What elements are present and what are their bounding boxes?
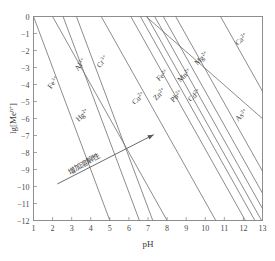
y-tick-label: −11 [17, 200, 29, 209]
x-tick-label: 6 [127, 224, 131, 233]
y-tick-label: −1 [21, 30, 30, 39]
series-line-zn2+ [131, 17, 246, 221]
series-line-ca2+ [221, 17, 275, 221]
series-label-text: Mg2+ [192, 49, 210, 67]
series-label-hg2+: Hg2+ [73, 106, 90, 123]
x-tick-label: 4 [89, 224, 93, 233]
x-tick-label: 12 [239, 224, 247, 233]
y-tick-label: −4 [21, 81, 30, 90]
series-labels: Fe3+Al3+Cr3+Hg2+Cu2+Zn2+Fe2+Pb2+Mn2+Cd2+… [45, 31, 249, 124]
y-tick-label: −3 [21, 64, 30, 73]
x-tick-label: 11 [220, 224, 228, 233]
series-label-text: Ca2+ [233, 31, 250, 48]
series-label-mg2+: Mg2+ [192, 49, 210, 67]
y-tick-label: −10 [17, 183, 30, 192]
y-tick-label: −12 [17, 217, 30, 226]
series-line-pb2+ [147, 17, 261, 221]
y-tick-label: 0 [26, 13, 30, 22]
series-label-text: As3+ [233, 107, 250, 124]
chart-canvas: 增加溶解性 Fe3+Al3+Cr3+Hg2+Cu2+Zn2+Fe2+Pb2+Mn… [0, 0, 275, 261]
y-tick-label: −2 [21, 47, 30, 56]
series-label-text: Hg2+ [73, 106, 90, 123]
series-line-hg2+ [53, 17, 168, 221]
solubility-trend-annotation-label: 增加溶解性 [66, 150, 102, 177]
solubility-chart-figure: 增加溶解性 Fe3+Al3+Cr3+Hg2+Cu2+Zn2+Fe2+Pb2+Mn… [0, 0, 275, 261]
series-label-as3+: As3+ [233, 107, 250, 124]
x-tick-label: 7 [146, 224, 150, 233]
x-tick-label: 5 [108, 224, 112, 233]
series-label-text: Fe2+ [154, 67, 170, 83]
x-tick-label: 1 [32, 224, 36, 233]
series-label-text: Cr3+ [94, 53, 110, 69]
y-tick-label: −9 [21, 166, 30, 175]
y-axis-title-tail: ] [8, 103, 18, 106]
series-line-cu2+ [101, 17, 216, 221]
solubility-trend-annotation-arrow-shaft [57, 135, 153, 184]
solubility-trend-annotation-arrow-head [147, 135, 153, 140]
x-axis-title: pH [143, 239, 155, 249]
series-label-mn2+: Mn2+ [175, 66, 193, 84]
y-axis-title-base: lg[Me [8, 112, 18, 134]
x-tick-label: 3 [70, 224, 74, 233]
series-label-zn2+: Zn2+ [151, 86, 168, 103]
series-line-cd2+ [163, 17, 275, 221]
series-label-ca2+: Ca2+ [233, 31, 250, 48]
series-line-mg2+ [176, 17, 275, 221]
series-label-cr3+: Cr3+ [94, 53, 110, 69]
y-tick-label: −7 [21, 132, 30, 141]
x-tick-label: 2 [51, 224, 55, 233]
series-label-text: Zn2+ [151, 86, 168, 103]
x-tick-label: 8 [165, 224, 169, 233]
series-line-mn2+ [155, 17, 270, 221]
series-label-al3+: Al3+ [72, 56, 88, 72]
y-axis-title-text: lg[Men+] [8, 103, 18, 134]
series-line-cr3+ [76, 17, 152, 221]
axis-tick-labels: 123456789101112130−1−2−3−4−5−6−7−8−9−10−… [17, 13, 267, 233]
x-tick-label: 9 [184, 224, 188, 233]
x-tick-label: 13 [259, 224, 267, 233]
x-tick-label: 10 [201, 224, 209, 233]
annotation-layer: 增加溶解性 [57, 135, 153, 184]
y-axis-title: lg[Men+] [8, 103, 18, 134]
y-tick-label: −6 [21, 115, 30, 124]
series-line-fe3+ [34, 17, 110, 221]
series-label-fe2+: Fe2+ [154, 67, 170, 83]
y-tick-label: −5 [21, 98, 30, 107]
series-label-text: Mn2+ [175, 66, 193, 84]
y-tick-label: −8 [21, 149, 30, 158]
series-label-text: Al3+ [72, 56, 88, 72]
axis-titles: pHlg[Men+] [8, 103, 154, 249]
